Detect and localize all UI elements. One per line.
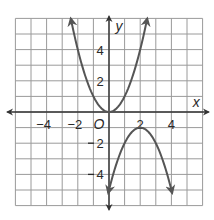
origin-label: O	[94, 116, 105, 132]
y-tick-label: 2	[96, 136, 103, 151]
y-tick-label: 2	[96, 74, 103, 89]
x-tick-label: −4	[36, 117, 51, 132]
y-tick-label: 4	[96, 167, 103, 182]
x-axis-label: x	[192, 94, 201, 110]
y-axis-label: y	[115, 18, 124, 34]
y-tick-label: 4	[96, 43, 103, 58]
x-tick-label: 2	[137, 117, 144, 132]
x-tick-label: 4	[168, 117, 175, 132]
coordinate-plane: xyO−4−2244224	[0, 0, 214, 220]
x-tick-label: −2	[67, 117, 82, 132]
